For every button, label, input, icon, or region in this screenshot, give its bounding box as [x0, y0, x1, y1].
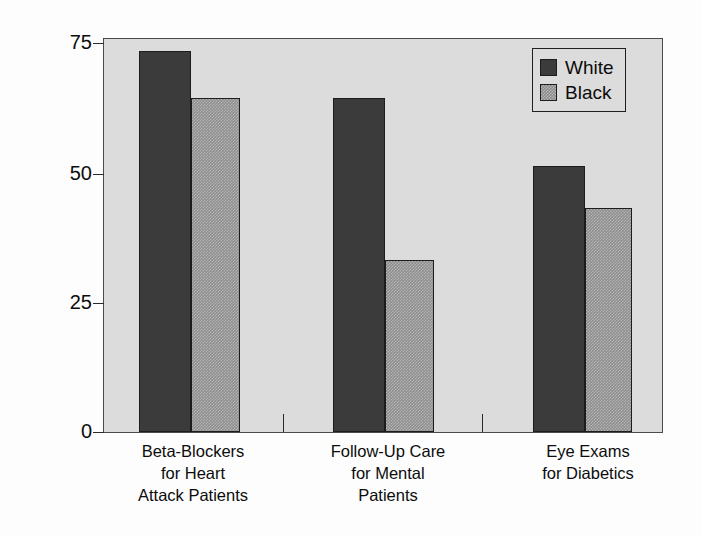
- legend-entry-black: Black: [540, 80, 614, 105]
- y-tick-mark-50: [93, 174, 104, 175]
- x-category-label-2-line-2: for Mental: [273, 463, 503, 485]
- y-axis-tick-labels: 75 50 25 0: [40, 38, 92, 433]
- legend-swatch-white-icon: [540, 59, 557, 76]
- x-category-label-3-line-1: Eye Exams: [473, 441, 701, 463]
- y-tick-mark-75: [93, 43, 104, 44]
- y-tick-label-25: 25: [70, 291, 92, 314]
- x-category-label-3-line-2: for Diabetics: [473, 463, 701, 485]
- bar-white-group-1: [139, 51, 191, 432]
- y-tick-mark-25: [93, 303, 104, 304]
- legend-label-black: Black: [565, 82, 611, 104]
- y-tick-label-0: 0: [81, 420, 92, 443]
- bar-black-group-1: [191, 98, 240, 432]
- x-category-label-2-line-3: Patients: [273, 485, 503, 507]
- bar-black-group-2: [385, 260, 434, 432]
- x-category-label-2-line-1: Follow-Up Care: [273, 441, 503, 463]
- y-tick-label-50: 50: [70, 162, 92, 185]
- x-separator-tick-1: [283, 414, 284, 432]
- legend-swatch-black-icon: [540, 84, 557, 101]
- legend-entry-white: White: [540, 55, 614, 80]
- bar-white-group-3: [533, 166, 585, 432]
- x-category-label-2: Follow-Up Carefor MentalPatients: [273, 441, 503, 507]
- plot-area: White Black: [103, 38, 663, 433]
- x-axis-category-labels: Beta-Blockersfor HeartAttack PatientsFol…: [103, 441, 663, 533]
- legend: White Black: [532, 48, 626, 112]
- bar-white-group-2: [333, 98, 385, 432]
- legend-label-white: White: [565, 57, 614, 79]
- y-tick-label-75: 75: [70, 31, 92, 54]
- y-tick-mark-0: [93, 432, 104, 433]
- x-separator-tick-2: [482, 414, 483, 432]
- bar-black-group-3: [585, 208, 632, 432]
- bar-chart: Percentage Receiving Treatment 75 50 25 …: [0, 0, 701, 537]
- x-category-label-3: Eye Examsfor Diabetics: [473, 441, 701, 485]
